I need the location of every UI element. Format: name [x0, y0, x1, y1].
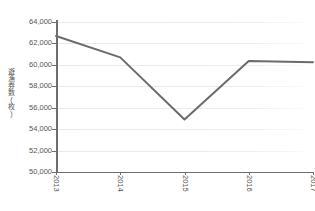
y-axis-tick-mark — [52, 108, 56, 109]
x-axis-tick-label: 2015 — [181, 175, 189, 192]
series-layer — [0, 0, 315, 211]
y-axis-tick-mark — [52, 86, 56, 87]
x-axis-tick-label: 2013 — [52, 175, 60, 192]
y-axis-tick-mark — [52, 129, 56, 130]
series-line-yugyoken — [56, 36, 313, 120]
y-axis-tick-mark — [52, 65, 56, 66]
y-axis-tick-mark — [52, 43, 56, 44]
x-axis-tick-label: 2014 — [116, 175, 124, 192]
y-axis-tick-mark — [52, 22, 56, 23]
x-axis-tick-label: 2016 — [245, 175, 253, 192]
x-axis-tick-label: 2017 — [309, 175, 315, 192]
line-chart: 遊漁券数(枚) 64,00062,00060,00058,00056,00054… — [0, 0, 315, 211]
y-axis-tick-mark — [52, 151, 56, 152]
